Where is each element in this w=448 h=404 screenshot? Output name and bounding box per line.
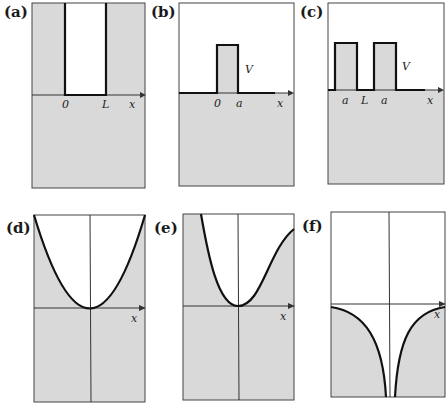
panel-label-b: (b) [151,3,176,21]
panel-d: (d) x [6,215,146,402]
tick-0: 0 [214,97,221,110]
panel-label-f: (f) [302,217,323,235]
panel-label-c: (c) [300,3,323,21]
axis-label-x: x [280,310,287,323]
axis-label-x: x [131,312,138,325]
barrier-fill [217,45,238,93]
panel-e: (e) x [154,214,295,400]
axis-label-x: x [277,97,284,110]
panel-label-e: (e) [154,219,178,237]
panel-f: (f) x [302,212,446,397]
tick-a-left: a [342,94,349,107]
panel-label-a: (a) [4,3,28,21]
tick-a-right: a [381,94,388,107]
barrier-right-fill [374,43,396,90]
axis-label-x: x [129,98,136,111]
well-interior [65,3,106,95]
tick-0: 0 [62,98,69,111]
tick-a: a [236,97,243,110]
potential-diagrams-figure: (a) 0 L x (b) V 0 a x (c) V a L a [0,0,448,404]
tick-L: L [360,94,368,107]
axis-label-x: x [434,308,441,321]
panel-a: (a) 0 L x [4,3,146,188]
panel-label-d: (d) [6,219,31,237]
axis-label-x: x [427,94,434,107]
panel-c: (c) V a L a x [300,3,444,184]
height-label-V: V [245,63,254,76]
tick-L: L [101,98,109,111]
height-label-V: V [402,60,411,73]
panel-b: (b) V 0 a x [151,3,294,186]
barrier-left-fill [335,43,357,90]
